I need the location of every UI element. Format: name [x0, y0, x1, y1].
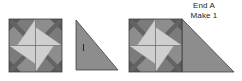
- pinwheel-block: [9, 19, 62, 72]
- pinwheel-quadrant-bottom-left: [9, 46, 36, 73]
- assembled-end-unit: [129, 19, 234, 72]
- quilt-assembly-diagram: End A Make 1: [0, 0, 242, 81]
- end-unit-pinwheel-quadrant-bottom-right: [156, 46, 183, 73]
- end-unit-pinwheel-quadrant-top-left: [129, 19, 156, 46]
- pinwheel-quadrant-bottom-right: [36, 46, 63, 73]
- pinwheel-quadrant-top-right: [36, 19, 63, 46]
- end-unit-pinwheel-quadrant-bottom-left: [129, 46, 156, 73]
- corner-triangle: [76, 20, 118, 70]
- end-unit-pinwheel-quadrant-top-right: [156, 19, 183, 46]
- diagram-canvas: [0, 0, 242, 81]
- pinwheel-quadrant-top-left: [9, 19, 36, 46]
